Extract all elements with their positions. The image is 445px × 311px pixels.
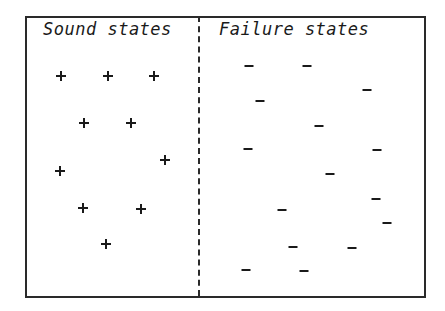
- plus-icon: [103, 71, 113, 81]
- sound-failure-boundary: [198, 16, 200, 296]
- failure-states-title: Failure states: [219, 19, 369, 39]
- minus-icon: [373, 149, 382, 151]
- plus-icon: [101, 239, 111, 249]
- plus-icon: [55, 166, 65, 176]
- sound-states-title: Sound states: [43, 19, 172, 39]
- minus-icon: [326, 173, 335, 175]
- plus-icon: [136, 204, 146, 214]
- minus-icon: [242, 269, 251, 271]
- minus-icon: [363, 89, 372, 91]
- state-space-frame: [25, 16, 426, 298]
- plus-icon: [160, 155, 170, 165]
- minus-icon: [383, 222, 392, 224]
- plus-icon: [126, 118, 136, 128]
- plus-icon: [78, 203, 88, 213]
- minus-icon: [300, 270, 309, 272]
- minus-icon: [315, 125, 324, 127]
- minus-icon: [303, 65, 312, 67]
- plus-icon: [79, 118, 89, 128]
- minus-icon: [256, 100, 265, 102]
- minus-icon: [245, 65, 254, 67]
- minus-icon: [348, 247, 357, 249]
- minus-icon: [278, 209, 287, 211]
- plus-icon: [149, 71, 159, 81]
- plus-icon: [56, 71, 66, 81]
- minus-icon: [289, 246, 298, 248]
- minus-icon: [244, 148, 253, 150]
- minus-icon: [372, 198, 381, 200]
